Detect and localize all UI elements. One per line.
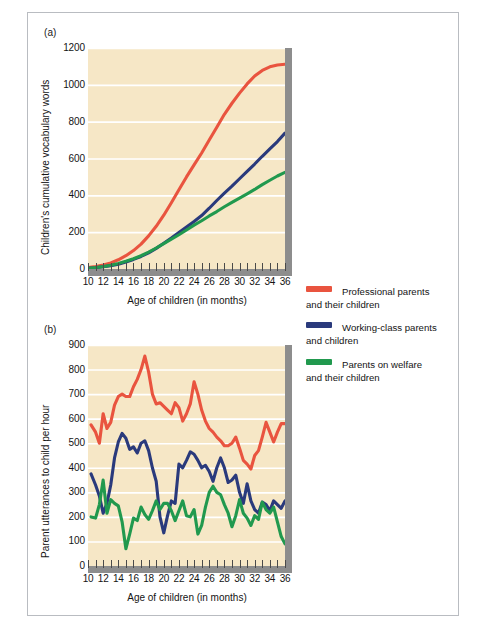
x-tick-label: 18 <box>142 276 156 287</box>
x-tickmark <box>277 263 278 271</box>
legend-swatch-welfare <box>306 359 332 365</box>
x-tickmark <box>232 560 233 568</box>
x-tickmark <box>187 560 188 568</box>
x-tickmark <box>164 263 165 271</box>
x-tickmark <box>202 263 203 271</box>
x-tickmark <box>194 263 195 271</box>
y-tick-label: 600 <box>69 413 85 424</box>
x-tick-label: 30 <box>233 573 247 584</box>
x-tick-label: 10 <box>81 573 95 584</box>
x-tickmark <box>164 560 165 568</box>
x-tickmark <box>209 560 210 568</box>
x-tickmark <box>247 263 248 271</box>
x-tick-label: 14 <box>111 276 125 287</box>
x-tickmark <box>255 560 256 568</box>
panel-b-plot-area <box>88 345 292 573</box>
x-tickmark <box>141 560 142 568</box>
x-tickmark <box>156 263 157 271</box>
x-tick-label: 26 <box>202 276 216 287</box>
x-tick-label: 26 <box>202 573 216 584</box>
x-tick-label: 20 <box>157 276 171 287</box>
x-tickmark <box>232 263 233 271</box>
x-tickmark <box>156 560 157 568</box>
y-tick-label: 200 <box>69 511 85 522</box>
x-tick-label: 16 <box>126 573 140 584</box>
y-tick-label: 300 <box>69 486 85 497</box>
y-tick-label: 400 <box>69 189 85 200</box>
x-tick-label: 30 <box>233 276 247 287</box>
x-tick-label: 18 <box>142 573 156 584</box>
panel-a-label: (a) <box>44 27 57 38</box>
y-tick-label: 700 <box>69 388 85 399</box>
x-tickmark <box>224 560 225 568</box>
x-tickmark <box>255 263 256 271</box>
x-tickmark <box>126 263 127 271</box>
legend-label-professional-line1: Professional parents <box>342 286 429 297</box>
legend-label-welfare-line1: Parents on welfare <box>342 359 422 370</box>
x-tickmark <box>240 263 241 271</box>
panel-a-plot-area <box>88 48 292 276</box>
x-tickmark <box>88 560 89 568</box>
x-tickmark <box>224 263 225 271</box>
x-tick-label: 24 <box>187 276 201 287</box>
x-tickmark <box>171 560 172 568</box>
x-tickmark <box>202 560 203 568</box>
x-tickmark <box>111 263 112 271</box>
panel-a-plot <box>88 48 285 269</box>
x-tick-label: 34 <box>263 276 277 287</box>
legend-item-welfare: Parents on welfare and their children <box>306 354 456 384</box>
x-tick-label: 36 <box>278 276 292 287</box>
x-tick-label: 32 <box>248 573 262 584</box>
x-tickmark <box>217 560 218 568</box>
x-tick-label: 12 <box>96 573 110 584</box>
x-tick-label: 20 <box>157 573 171 584</box>
x-tick-label: 28 <box>217 276 231 287</box>
x-tick-label: 10 <box>81 276 95 287</box>
y-tick-label: 1000 <box>63 79 85 90</box>
chart-legend: Professional parents and their children … <box>306 281 456 390</box>
x-tickmark <box>240 560 241 568</box>
x-tickmark <box>103 560 104 568</box>
x-tick-label: 22 <box>172 276 186 287</box>
legend-label-working-class-line1: Working-class parents <box>342 322 437 333</box>
x-tickmark <box>187 263 188 271</box>
x-tickmark <box>262 263 263 271</box>
x-tickmark <box>103 263 104 271</box>
x-tickmark <box>179 263 180 271</box>
x-tickmark <box>88 263 89 271</box>
y-tick-label: 600 <box>69 153 85 164</box>
x-tickmark <box>133 560 134 568</box>
x-tickmark <box>118 560 119 568</box>
y-tick-label: 0 <box>80 560 85 571</box>
x-tickmark <box>141 263 142 271</box>
panel-a-y-axis-title: Children's cumulative vocabulary words <box>40 80 51 255</box>
legend-label-welfare-line2: and their children <box>306 372 456 384</box>
legend-label-professional-line2: and their children <box>306 299 456 311</box>
x-tickmark <box>270 560 271 568</box>
x-tickmark <box>96 263 97 271</box>
x-tickmark <box>179 560 180 568</box>
y-tick-label: 0 <box>80 263 85 274</box>
x-tickmark <box>96 560 97 568</box>
panel-b-x-axis-title: Age of children (in months) <box>0 592 374 603</box>
x-tick-label: 16 <box>126 276 140 287</box>
x-tickmark <box>277 560 278 568</box>
x-tick-label: 24 <box>187 573 201 584</box>
x-tickmark <box>285 263 286 271</box>
figure-root: (a) Children's cumulative vocabulary wor… <box>0 0 479 633</box>
legend-swatch-professional <box>306 286 332 292</box>
x-tickmark <box>118 263 119 271</box>
x-tickmark <box>217 263 218 271</box>
panel-b-plot <box>88 345 285 566</box>
x-tick-label: 34 <box>263 573 277 584</box>
x-tickmark <box>149 560 150 568</box>
y-tick-label: 400 <box>69 462 85 473</box>
x-tickmark <box>111 560 112 568</box>
y-tick-label: 900 <box>69 339 85 350</box>
x-tickmark <box>194 560 195 568</box>
legend-label-working-class-line2: and children <box>306 335 456 347</box>
legend-item-working-class: Working-class parents and children <box>306 317 456 347</box>
x-tick-label: 28 <box>217 573 231 584</box>
x-tick-label: 32 <box>248 276 262 287</box>
y-tick-label: 500 <box>69 437 85 448</box>
